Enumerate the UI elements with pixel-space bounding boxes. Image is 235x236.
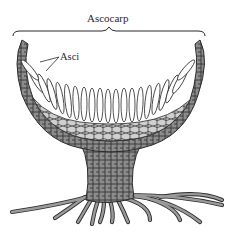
ascocarp-label: Ascocarp (87, 13, 129, 24)
asci-label: Asci (60, 52, 79, 63)
ascocarp-diagram (0, 0, 235, 236)
ascocarp-brace (13, 27, 205, 36)
